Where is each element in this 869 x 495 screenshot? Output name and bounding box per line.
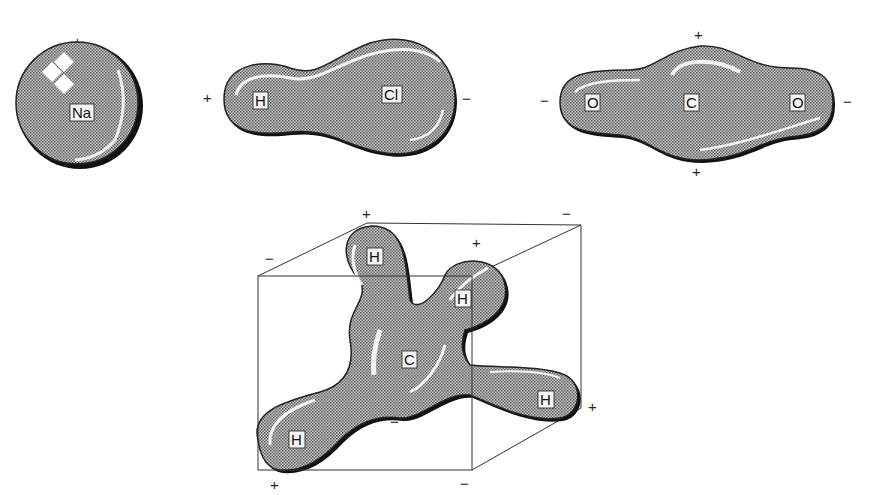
atom-label-c: C bbox=[404, 351, 415, 368]
sign-back-top-right: − bbox=[562, 205, 571, 222]
atom-label-c: C bbox=[686, 94, 697, 111]
atom-label-h-right-top: H bbox=[457, 290, 468, 307]
sodium-molecule: + Na bbox=[16, 33, 143, 169]
sign-top: + bbox=[694, 26, 703, 43]
sign-front-bottom-right: − bbox=[460, 475, 469, 492]
electron-cloud bbox=[16, 42, 138, 164]
hcl-molecule: + − H Cl bbox=[203, 39, 471, 157]
sign-back-bottom-right: + bbox=[588, 398, 597, 415]
sign-right: − bbox=[462, 90, 471, 107]
sign-left: + bbox=[203, 89, 212, 106]
methane-molecule: H H C H H + − − + + + − − bbox=[257, 205, 597, 493]
atom-label-na: Na bbox=[72, 104, 92, 121]
atom-label-h: H bbox=[255, 92, 266, 109]
sign-front-bottom-left: + bbox=[270, 476, 279, 493]
sign-bottom: + bbox=[692, 163, 701, 180]
atom-label-o-right: O bbox=[792, 94, 804, 111]
co2-molecule: + + − − O C O bbox=[540, 26, 852, 180]
molecule-diagram: + Na + − H Cl + + − − bbox=[0, 0, 869, 495]
sign-left: − bbox=[540, 92, 549, 109]
atom-label-h-bottom: H bbox=[291, 431, 302, 448]
sign-back-top-left: + bbox=[362, 205, 371, 222]
atom-label-o-left: O bbox=[587, 94, 599, 111]
sign-right: − bbox=[843, 93, 852, 110]
sign-front-top-right: + bbox=[472, 234, 481, 251]
atom-label-h-top: H bbox=[369, 248, 380, 265]
atom-label-cl: Cl bbox=[384, 86, 398, 103]
atom-label-h-right: H bbox=[540, 391, 551, 408]
sign-front-top-left: − bbox=[265, 250, 274, 267]
sign-back-bottom-left: − bbox=[390, 413, 399, 430]
